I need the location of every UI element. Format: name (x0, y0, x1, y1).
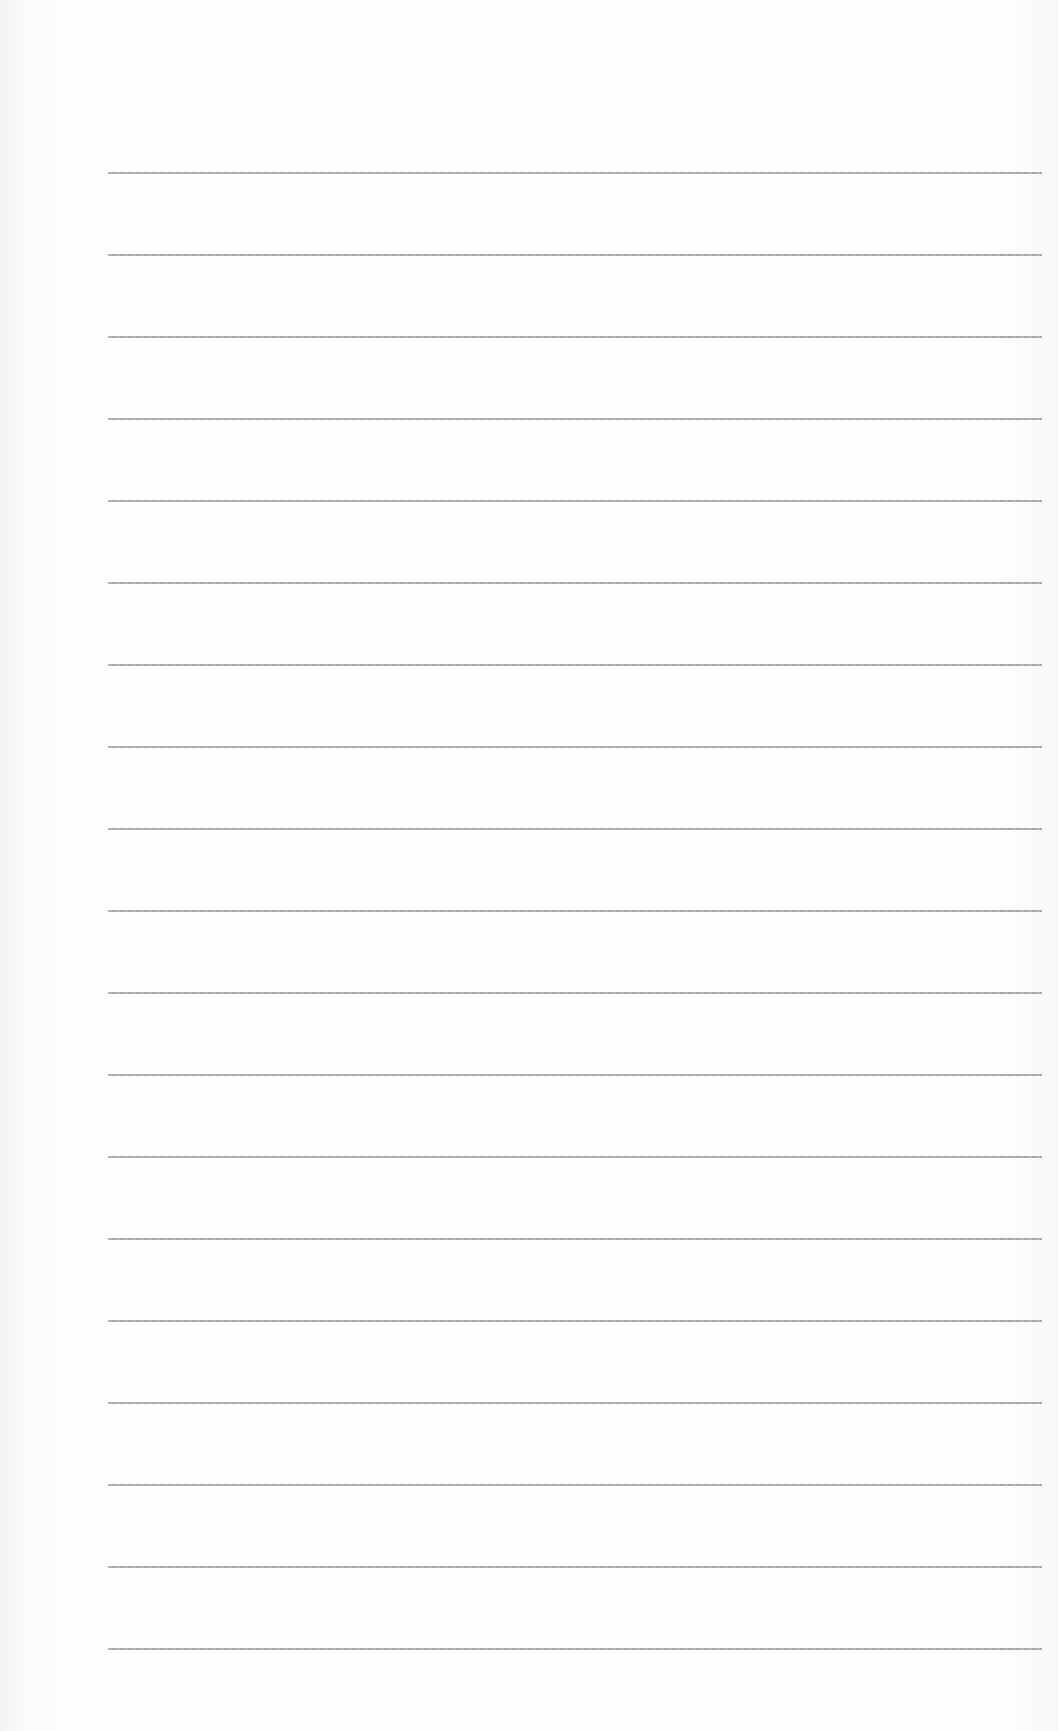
ruled-line (108, 910, 1042, 912)
ruled-line (108, 664, 1042, 666)
ruled-line (108, 746, 1042, 748)
ruled-line (108, 1238, 1042, 1240)
ruled-line (108, 254, 1042, 256)
ruled-line (108, 582, 1042, 584)
ruled-line (108, 1402, 1042, 1404)
ruled-line (108, 828, 1042, 830)
ruled-line (108, 1484, 1042, 1486)
ruled-line (108, 992, 1042, 994)
ruled-line (108, 1074, 1042, 1076)
ruled-line (108, 1320, 1042, 1322)
ruled-line (108, 500, 1042, 502)
ruled-line (108, 1156, 1042, 1158)
ruled-line (108, 1566, 1042, 1568)
ruled-line (108, 1648, 1042, 1650)
lined-paper-sheet (0, 0, 1058, 1731)
ruled-line (108, 336, 1042, 338)
ruled-line (108, 418, 1042, 420)
ruled-line (108, 172, 1042, 174)
